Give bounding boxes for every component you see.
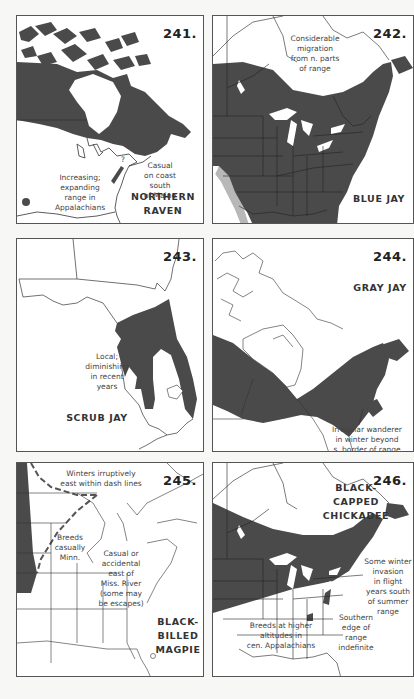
range-note-irregular-wanderer: Irregular wanderer in winter beyond s. b… [323, 425, 411, 452]
range-note-winter-invasion: Some winter invasion in flight years sou… [361, 557, 414, 617]
map-panel-scrub-jay: 243. Local; diminishing in recent years … [16, 238, 204, 452]
species-name-line: MAGPIE [153, 643, 203, 657]
species-name-line: CHICKADEE [321, 509, 391, 523]
map-number: 243. [163, 249, 197, 264]
species-name-line: BLUE JAY [349, 192, 409, 206]
map-number: 241. [163, 26, 197, 41]
range-note-breeds-casually: Breeds casually Minn. [47, 533, 93, 563]
range-note-question-mark: ? [119, 155, 127, 165]
species-name-line: CAPPED [321, 495, 391, 509]
species-name-line: SCRUB JAY [57, 411, 137, 425]
species-name-line: BILLED [153, 629, 203, 643]
species-name-line: GRAY JAY [349, 281, 411, 295]
species-name: NORTHERN RAVEN [129, 190, 197, 218]
range-note-winters-irruptively: Winters irruptively east within dash lin… [51, 469, 151, 489]
range-note-local: Local; diminishing in recent years [77, 352, 137, 392]
map-panel-blue-jay: 242. Considerable migration from n. part… [212, 15, 414, 224]
map-panel-black-billed-magpie: 245. Winters irruptively east within das… [16, 462, 204, 677]
species-name: BLACK- BILLED MAGPIE [153, 615, 203, 657]
species-name-line: BLACK- [153, 615, 203, 629]
map-panel-black-capped-chickadee: 246. BLACK- CAPPED CHICKADEE Some winter… [212, 462, 414, 677]
species-name: SCRUB JAY [57, 411, 137, 425]
species-name-line: RAVEN [129, 204, 197, 218]
range-note-breeds-higher-altitudes: Breeds at higher altitudes in cen. Appal… [241, 621, 321, 651]
range-note-southern-edge: Southern edge of range indefinite [331, 613, 381, 653]
map-number: 245. [163, 473, 197, 488]
map-panel-northern-raven: 241. Increasing; expanding range in Appa… [16, 15, 204, 224]
map-number: 242. [373, 26, 407, 41]
range-map-gray-jay [213, 239, 414, 452]
map-panel-gray-jay: 244. GRAY JAY Irregular wanderer in wint… [212, 238, 414, 452]
species-name: BLACK- CAPPED CHICKADEE [321, 481, 391, 523]
range-note-appalachians: Increasing; expanding range in Appalachi… [45, 173, 115, 213]
range-note-casual-accidental: Casual or accidental east of Miss. River… [91, 549, 151, 609]
species-name-line: BLACK- [321, 481, 391, 495]
map-number: 244. [373, 249, 407, 264]
species-name: GRAY JAY [349, 281, 411, 295]
species-name: BLUE JAY [349, 192, 409, 206]
species-name-line: NORTHERN [129, 190, 197, 204]
range-note-migration: Considerable migration from n. parts of … [277, 34, 353, 74]
